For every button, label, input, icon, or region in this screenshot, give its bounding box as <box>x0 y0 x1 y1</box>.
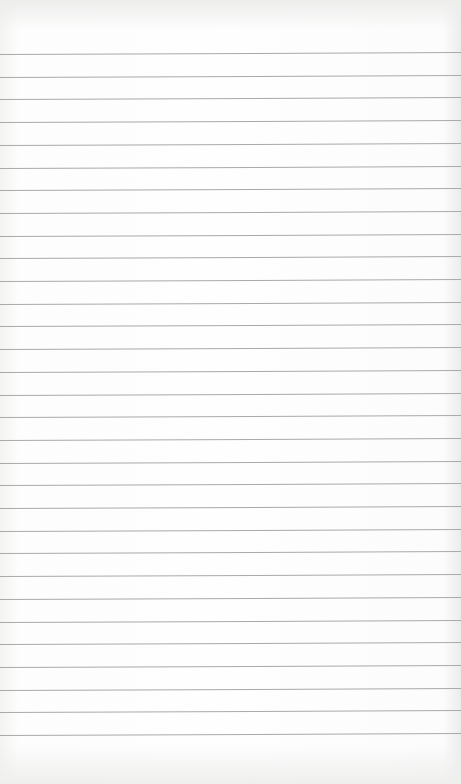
rule-line <box>0 415 461 418</box>
rule-line <box>0 529 461 532</box>
rule-line <box>0 551 461 554</box>
rule-line <box>0 211 461 214</box>
rule-line <box>0 506 461 509</box>
rule-line <box>0 438 461 441</box>
rule-line <box>0 165 461 168</box>
rule-line <box>0 234 461 237</box>
rule-line <box>0 143 461 146</box>
rule-line <box>0 665 461 668</box>
rule-line <box>0 370 461 373</box>
rule-line <box>0 710 461 713</box>
rule-line <box>0 52 461 55</box>
lined-paper-sheet <box>0 0 461 784</box>
rule-line <box>0 75 461 78</box>
rule-line <box>0 256 461 259</box>
rule-line <box>0 279 461 282</box>
rule-line <box>0 597 461 600</box>
rule-line <box>0 302 461 305</box>
rule-line <box>0 619 461 622</box>
rule-line <box>0 688 461 691</box>
rule-line <box>0 642 461 645</box>
rule-line <box>0 574 461 577</box>
rule-line <box>0 97 461 100</box>
rule-line <box>0 347 461 350</box>
rule-line <box>0 461 461 464</box>
rule-line <box>0 188 461 191</box>
rule-line <box>0 120 461 123</box>
rule-line <box>0 324 461 327</box>
rule-line <box>0 483 461 486</box>
rule-line <box>0 392 461 395</box>
rule-line <box>0 733 461 736</box>
